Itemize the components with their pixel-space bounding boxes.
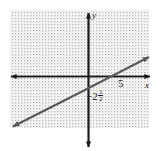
- shaded-region: [10, 10, 149, 128]
- coordinate-plane-figure: y x 5 −2 1 2: [0, 0, 161, 151]
- graph-svg: [0, 0, 161, 151]
- fraction-denominator: 2: [98, 96, 103, 103]
- y-intercept-whole-part: −2: [86, 91, 98, 102]
- x-intercept-label: 5: [118, 78, 124, 89]
- y-intercept-label: −2 1 2: [86, 89, 103, 104]
- x-axis-label: x: [145, 81, 149, 90]
- y-intercept-fraction: 1 2: [98, 89, 103, 104]
- y-axis-label: y: [92, 11, 96, 20]
